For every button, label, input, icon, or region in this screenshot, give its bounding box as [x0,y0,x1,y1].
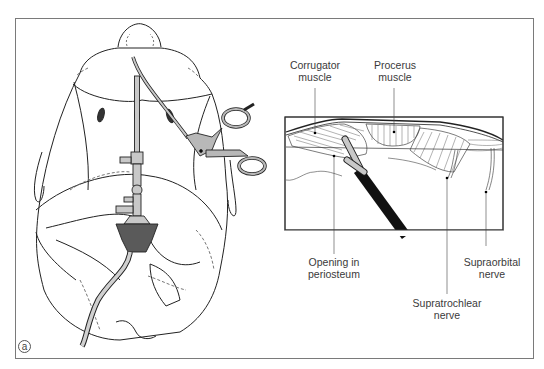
label-line: nerve [462,268,522,280]
label-line: muscle [369,71,421,83]
label-line: Supraorbital [462,256,522,268]
label-procerus-muscle: Procerus muscle [369,59,421,83]
label-supratrochlear-nerve: Supratrochlear nerve [412,297,482,321]
panel-label: a [18,340,31,353]
label-line: nerve [412,309,482,321]
label-supraorbital-nerve: Supraorbital nerve [462,256,522,280]
label-line: Corrugator [285,59,345,71]
label-line: Supratrochlear [412,297,482,309]
label-line: periosteum [305,268,363,280]
label-line: Opening in [305,256,363,268]
label-corrugator-muscle: Corrugator muscle [285,59,345,83]
label-opening-in-periosteum: Opening in periosteum [305,256,363,280]
label-line: muscle [285,71,345,83]
label-line: Procerus [369,59,421,71]
endoscope [82,76,158,346]
